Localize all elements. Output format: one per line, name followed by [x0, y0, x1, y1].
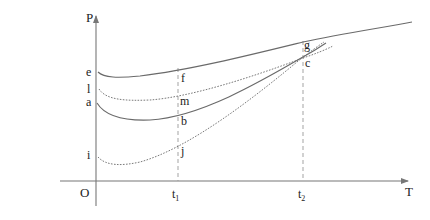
- curve-i-j-c: [98, 42, 324, 165]
- curve-e-f-g: [98, 22, 412, 77]
- point-l-label: l: [87, 82, 91, 96]
- point-i-label: i: [87, 148, 91, 162]
- point-f-label: f: [181, 71, 185, 85]
- point-g-label: g: [304, 38, 310, 52]
- point-e-label: e: [86, 65, 91, 79]
- x-axis-label: T: [405, 184, 413, 199]
- curve-l-m-c: [99, 46, 333, 100]
- y-axis-label: P: [86, 10, 93, 25]
- point-j-label: j: [180, 144, 184, 158]
- t1-tick-label: t1: [172, 187, 179, 203]
- curve-a-b-c: [97, 43, 326, 120]
- point-c-label: c: [305, 56, 310, 70]
- point-a-label: a: [86, 95, 92, 109]
- p-t-diagram: P T O t1 t2 e l a i f m b j g c: [0, 0, 430, 220]
- t2-tick-label: t2: [298, 187, 305, 203]
- point-b-label: b: [181, 114, 187, 128]
- point-m-label: m: [180, 94, 190, 108]
- origin-label: O: [80, 185, 89, 200]
